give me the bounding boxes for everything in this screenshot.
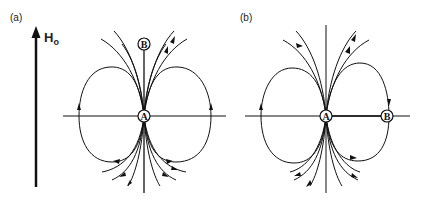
dipole-field-figure: (a) Ho bbox=[0, 0, 426, 201]
point-a-node: A bbox=[138, 110, 150, 122]
svg-text:A: A bbox=[322, 111, 330, 122]
point-a-node: A bbox=[320, 110, 332, 122]
svg-text:B: B bbox=[384, 111, 391, 122]
panel-b: (b) bbox=[213, 12, 410, 193]
point-b-node: B bbox=[381, 110, 393, 122]
point-b-node: B bbox=[138, 38, 150, 50]
field-arrow-icon bbox=[32, 26, 41, 187]
svg-text:B: B bbox=[141, 39, 148, 50]
field-lines bbox=[261, 31, 389, 186]
panel-b-label: (b) bbox=[240, 12, 252, 23]
panel-a: (a) Ho bbox=[10, 12, 213, 193]
svg-text:A: A bbox=[140, 111, 148, 122]
field-lines bbox=[79, 31, 211, 186]
field-label: Ho bbox=[44, 30, 59, 47]
panel-a-label: (a) bbox=[10, 12, 22, 23]
